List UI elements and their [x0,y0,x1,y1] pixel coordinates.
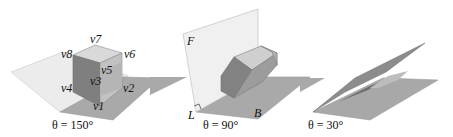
vertex-label-v3: v3 [90,74,101,88]
label-L: L [187,108,195,122]
panel-90: F L B θ = 90° [150,9,310,132]
panel-150: v7 v8 v6 v5 v3 v4 v2 v1 θ = 150° [11,32,160,132]
panel-30: θ = 30° [300,43,438,132]
vertex-label-v6: v6 [124,47,135,61]
vertex-label-v4: v4 [61,81,72,95]
vertex-label-v2: v2 [123,81,134,95]
vertex-label-v7: v7 [90,32,102,46]
dark-plane-fragment-2 [300,78,325,92]
vertex-label-v8: v8 [61,47,72,61]
label-B: B [254,106,262,120]
vertex-label-v5: v5 [101,63,112,77]
vertex-label-v1: v1 [93,99,104,113]
caption-30: θ = 30° [308,118,344,132]
label-F: F [186,34,195,48]
caption-150: θ = 150° [52,118,94,132]
dark-plane-fragment [150,77,187,95]
figure-canvas: v7 v8 v6 v5 v3 v4 v2 v1 θ = 150° F L B θ… [0,0,453,137]
caption-90: θ = 90° [203,118,239,132]
